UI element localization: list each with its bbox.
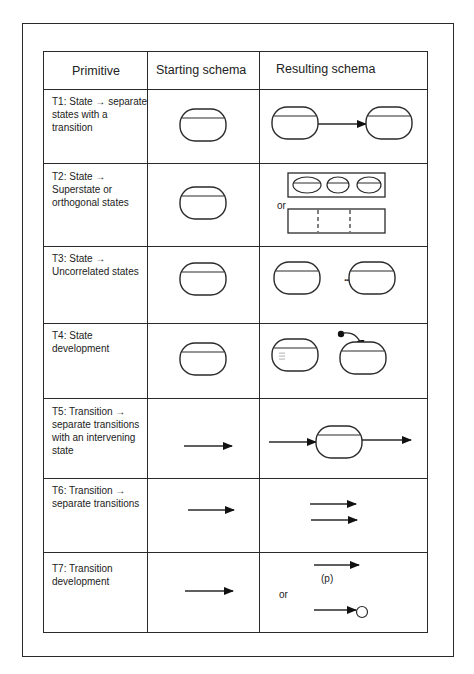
transformation-primitives-table: Primitive Starting schema Resulting sche… bbox=[43, 51, 428, 633]
state-icon bbox=[180, 343, 226, 375]
state-icon bbox=[180, 187, 226, 219]
state-icon bbox=[272, 107, 318, 139]
schema-drawings bbox=[44, 52, 429, 634]
state-icon bbox=[180, 263, 226, 295]
state-icon bbox=[274, 262, 320, 294]
state-icon bbox=[366, 107, 412, 139]
state-icon bbox=[340, 342, 386, 374]
state-icon bbox=[180, 109, 226, 141]
orthogonal-states-icon bbox=[288, 209, 385, 233]
refined-state-icon bbox=[272, 339, 318, 371]
superstate-icon bbox=[288, 173, 385, 197]
final-point-icon bbox=[357, 607, 368, 618]
state-icon bbox=[349, 262, 395, 294]
state-icon bbox=[316, 426, 362, 458]
